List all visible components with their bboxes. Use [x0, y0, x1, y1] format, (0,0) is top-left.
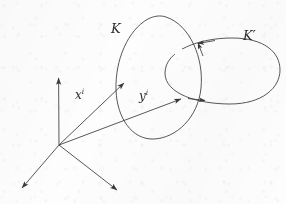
loop-k — [116, 16, 203, 139]
axis-lower-right — [59, 145, 117, 190]
prime-mark: ′ — [253, 28, 256, 43]
figure-container: K K′ xi yi — [0, 0, 286, 204]
loop-k-prime-path — [165, 38, 280, 104]
vector-label-y: yi — [139, 90, 148, 102]
loop-k-orientation-arrow — [198, 43, 203, 56]
loop-k-prime — [165, 38, 280, 104]
loop-k-path — [116, 16, 201, 139]
coordinate-axes — [22, 78, 117, 190]
axis-lower-left — [22, 145, 59, 188]
vector-label-x-index: i — [82, 87, 84, 96]
curve-label-k: K — [111, 22, 121, 35]
vector-label-y-index: i — [146, 88, 148, 97]
vector-label-x: xi — [75, 89, 84, 101]
curve-label-k-prime: K′ — [243, 29, 256, 42]
vector-x-arrow — [59, 83, 124, 145]
